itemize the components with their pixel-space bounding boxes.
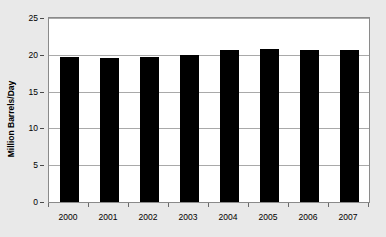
plot-area [48, 17, 370, 203]
y-tick-0 [40, 202, 44, 203]
x-axis-tick-labels: 20002001200220032004200520062007 [48, 205, 370, 229]
x-tick-label-2001: 2001 [99, 212, 118, 222]
x-tick-label-2005: 2005 [259, 212, 278, 222]
y-tick-label-15: 15 [29, 87, 38, 97]
bar-2006 [300, 50, 319, 202]
bar-chart-figure: Million Barrels/Day 0510152025 200020012… [0, 0, 386, 237]
x-tick-label-2000: 2000 [59, 212, 78, 222]
gridline-5 [49, 165, 369, 166]
bar-2003 [180, 55, 199, 202]
y-tick-20 [40, 55, 44, 56]
bar-2001 [100, 58, 119, 202]
y-tick-label-5: 5 [33, 160, 38, 170]
y-tick-10 [40, 128, 44, 129]
x-tick-label-2003: 2003 [179, 212, 198, 222]
y-tick-label-10: 10 [29, 123, 38, 133]
y-tick-label-25: 25 [29, 13, 38, 23]
y-tick-label-0: 0 [33, 197, 38, 207]
y-tick-25 [40, 18, 44, 19]
y-tick-label-20: 20 [29, 50, 38, 60]
y-tick-15 [40, 92, 44, 93]
gridline-10 [49, 128, 369, 129]
bar-2000 [60, 57, 79, 202]
gridline-15 [49, 92, 369, 93]
x-tick-label-2006: 2006 [299, 212, 318, 222]
gridline-20 [49, 55, 369, 56]
bar-2007 [340, 50, 359, 202]
bar-2005 [260, 49, 279, 202]
y-axis-tick-labels: 0510152025 [0, 17, 44, 203]
bar-2002 [140, 57, 159, 202]
bar-2004 [220, 50, 239, 202]
x-tick-label-2007: 2007 [339, 212, 358, 222]
gridline-25 [49, 18, 369, 19]
y-tick-5 [40, 165, 44, 166]
x-tick-label-2002: 2002 [139, 212, 158, 222]
x-tick-label-2004: 2004 [219, 212, 238, 222]
